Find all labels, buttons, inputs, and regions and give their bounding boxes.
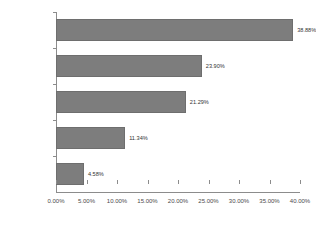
bar-value-label: 23.90%	[206, 62, 225, 70]
x-axis-tick-label: 40.00%	[280, 198, 316, 204]
chart-category-row: 1 to 1038.88%	[56, 12, 300, 48]
y-axis-tick	[53, 84, 56, 85]
y-axis-tick	[53, 12, 56, 13]
chart-category-row: 101 to 50011.34%	[56, 120, 300, 156]
chart-category-row: 501 plus4.58%	[56, 156, 300, 192]
bar-value-label: 38.88%	[297, 26, 316, 34]
x-axis-tick	[87, 180, 88, 184]
chart-category-row: 11 to 2523.90%	[56, 48, 300, 84]
x-axis-tick	[117, 180, 118, 184]
x-axis-tick	[270, 180, 271, 184]
x-axis-tick	[178, 180, 179, 184]
bar-chart: 1 to 1038.88%11 to 2523.90%26 to 10021.2…	[0, 0, 316, 225]
x-axis-tick	[300, 180, 301, 184]
chart-bar	[56, 91, 186, 113]
x-axis-tick	[239, 180, 240, 184]
y-axis-tick	[53, 48, 56, 49]
x-axis-line	[56, 192, 300, 193]
x-axis-tick	[148, 180, 149, 184]
bar-value-label: 21.29%	[190, 98, 209, 106]
x-axis-tick	[209, 180, 210, 184]
chart-bar	[56, 163, 84, 185]
bar-value-label: 4.58%	[88, 170, 104, 178]
bar-value-label: 11.34%	[129, 134, 148, 142]
plot-area: 1 to 1038.88%11 to 2523.90%26 to 10021.2…	[56, 12, 300, 192]
y-axis-tick	[53, 120, 56, 121]
chart-bar	[56, 19, 293, 41]
chart-category-row: 26 to 10021.29%	[56, 84, 300, 120]
chart-bar	[56, 55, 202, 77]
y-axis-tick	[53, 156, 56, 157]
chart-bar	[56, 127, 125, 149]
x-axis-tick	[56, 180, 57, 184]
